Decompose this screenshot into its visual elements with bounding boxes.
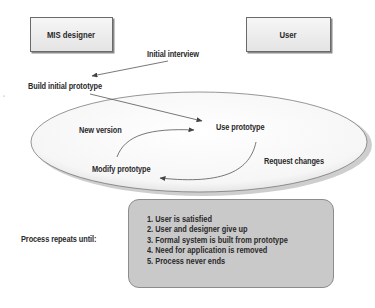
- condition-item: 3. Formal system is built from prototype: [147, 235, 288, 245]
- build-initial-prototype-label: Build initial prototype: [28, 81, 102, 91]
- new-version-label: New version: [79, 125, 122, 135]
- process-repeats-label: Process repeats until:: [21, 234, 96, 244]
- initial-interview-label: Initial interview: [147, 49, 199, 59]
- modify-prototype-label: Modify prototype: [92, 164, 151, 174]
- mis-designer-box: MIS designer: [30, 17, 113, 52]
- cycle-ellipse: [31, 92, 367, 192]
- stray-dot: [3, 95, 4, 96]
- condition-item: 5. Process never ends: [147, 256, 288, 266]
- user-box: User: [246, 17, 331, 52]
- user-label: User: [280, 30, 297, 40]
- mis-designer-label: MIS designer: [47, 30, 95, 40]
- initial-interview-arrow: [92, 61, 168, 76]
- condition-item: 2. User and designer give up: [147, 224, 288, 234]
- condition-item: 1. User is satisfied: [147, 214, 288, 224]
- termination-conditions-list: 1. User is satisfied 2. User and designe…: [147, 214, 311, 266]
- use-prototype-label: Use prototype: [216, 122, 265, 132]
- request-changes-label: Request changes: [264, 156, 324, 166]
- condition-item: 4. Need for application is removed: [147, 245, 288, 255]
